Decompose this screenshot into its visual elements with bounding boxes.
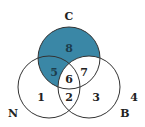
region-7: 7 [80, 66, 88, 79]
set-label-b: B [120, 107, 129, 120]
region-6: 6 [65, 73, 73, 86]
region-1: 1 [37, 91, 45, 104]
region-5: 5 [50, 66, 58, 79]
set-label-n: N [8, 107, 18, 120]
set-label-c: C [65, 10, 74, 23]
venn-diagram: C N B 8 5 6 7 1 2 3 4 [0, 0, 145, 127]
region-8: 8 [65, 42, 73, 55]
region-2: 2 [65, 91, 73, 104]
region-4: 4 [130, 91, 138, 104]
region-3: 3 [92, 91, 100, 104]
